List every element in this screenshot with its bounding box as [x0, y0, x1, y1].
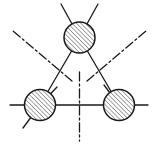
bottom-left-atom[interactable]: [25, 90, 56, 121]
mirror-axis-upper-left: [12, 30, 72, 81]
bottom-right-atom[interactable]: [104, 90, 135, 121]
symmetry-diagram-svg: [0, 0, 157, 148]
top-atom[interactable]: [64, 22, 95, 53]
figure-container: [0, 0, 157, 148]
mirror-axis-upper-right: [87, 30, 147, 81]
